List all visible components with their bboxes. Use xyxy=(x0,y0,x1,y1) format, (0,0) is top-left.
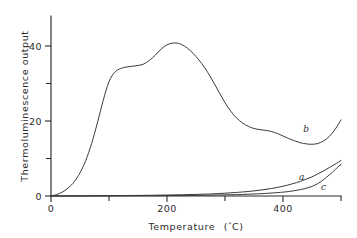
curve-label-c: c xyxy=(321,182,326,192)
x-axis-title-text: Temperature xyxy=(147,221,215,232)
y-tick-label-0: 0 xyxy=(36,191,42,202)
y-axis-tick-labels: 0 20 40 xyxy=(29,41,42,202)
y-axis-ticks xyxy=(45,46,51,196)
curve-b xyxy=(51,43,341,196)
svg-text:Temperature (°C): Temperature (°C) xyxy=(147,221,243,232)
x-axis-tick-labels: 0 200 400 xyxy=(48,203,293,214)
x-tick-label-200: 200 xyxy=(157,203,176,214)
thermoluminescence-glow-curve-figure: 0 20 40 0 200 400 Temperature (°C) xyxy=(0,0,357,238)
curve-labels-group: bac xyxy=(299,124,326,192)
y-tick-label-40: 40 xyxy=(29,41,42,52)
x-tick-label-0: 0 xyxy=(48,203,54,214)
x-axis-ticks xyxy=(51,196,341,202)
x-axis-unit-close: ) xyxy=(239,221,243,232)
y-axis-title-text: Thermoluminescence output xyxy=(19,30,30,182)
y-axis-title: Thermoluminescence output xyxy=(19,30,30,182)
y-tick-label-20: 20 xyxy=(29,116,42,127)
curve-label-b: b xyxy=(303,124,309,134)
chart-canvas: 0 20 40 0 200 400 Temperature (°C) xyxy=(0,0,357,238)
axis-lines xyxy=(51,16,341,196)
x-axis-unit-c: C xyxy=(232,221,239,232)
x-tick-label-400: 400 xyxy=(273,203,292,214)
x-axis-title: Temperature (°C) xyxy=(147,221,243,232)
curve-label-a: a xyxy=(299,172,304,182)
data-curves-group xyxy=(51,43,341,196)
curve-c xyxy=(51,165,341,197)
